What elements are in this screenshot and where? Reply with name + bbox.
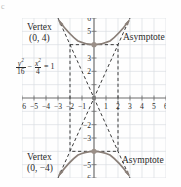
vertex-top-label-line1: Vertex <box>27 22 52 33</box>
vertex-bottom-label-line1: Vertex <box>27 152 53 163</box>
asymptote-bottom-label: Asymptote <box>122 155 164 165</box>
equation-x-denominator: 4 <box>35 67 41 76</box>
equation-x-exponent: 2 <box>38 57 41 63</box>
svg-text:1: 1 <box>104 102 108 111</box>
svg-text:−5: −5 <box>83 161 91 170</box>
svg-text:−2: −2 <box>66 102 74 111</box>
equation-y-exponent: 2 <box>21 57 24 63</box>
equation-x-fraction: x2 4 <box>34 58 42 76</box>
svg-text:2: 2 <box>116 102 120 111</box>
equation-operator: − <box>27 62 34 71</box>
equation-equals: = 1 <box>43 62 56 71</box>
equation-y-denominator: 16 <box>16 67 26 76</box>
svg-text:6: 6 <box>164 102 166 111</box>
origin-dot <box>92 96 96 100</box>
equation: y2 16 − x2 4 = 1 <box>16 58 55 76</box>
vertex-bottom-label-line2: (0, −4) <box>27 163 53 174</box>
asymptote-top-label: Asymptote <box>123 32 165 42</box>
svg-text:3: 3 <box>87 54 91 63</box>
equation-y-numerator: y2 <box>17 58 25 67</box>
svg-text:−1: −1 <box>78 102 86 111</box>
svg-text:−2: −2 <box>83 121 91 130</box>
figure-container: c <box>0 0 181 187</box>
svg-text:3: 3 <box>128 102 132 111</box>
svg-text:−3: −3 <box>54 102 62 111</box>
vertex-bottom-label: Vertex (0, −4) <box>27 152 53 174</box>
svg-text:2: 2 <box>87 67 91 76</box>
svg-text:−5: −5 <box>30 102 38 111</box>
svg-text:5: 5 <box>87 27 91 36</box>
svg-text:4: 4 <box>140 102 144 111</box>
vertex-top-label: Vertex (0, 4) <box>27 22 52 44</box>
vertex-dot-bottom <box>91 149 96 154</box>
equation-x-numerator: x2 <box>34 58 42 67</box>
svg-text:−6: −6 <box>22 102 26 111</box>
vertex-top-label-line2: (0, 4) <box>27 33 52 44</box>
svg-text:−6: −6 <box>83 174 91 178</box>
axis-arrows <box>92 18 166 100</box>
equation-y-fraction: y2 16 <box>16 58 26 76</box>
svg-text:−3: −3 <box>83 134 91 143</box>
svg-text:6: 6 <box>87 18 91 23</box>
vertex-dot-top <box>91 42 96 47</box>
svg-text:5: 5 <box>152 102 156 111</box>
svg-text:−4: −4 <box>42 102 50 111</box>
corner-mark: c <box>1 2 7 12</box>
